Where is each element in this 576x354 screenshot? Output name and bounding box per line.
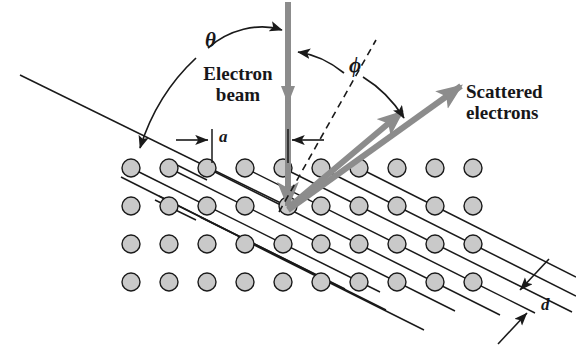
electron-diffraction-figure: Electron beam Scattered electrons θ ϕ a … [0,0,576,354]
atom [426,235,444,253]
atom [198,235,216,253]
atom [350,197,368,215]
atom [236,235,254,253]
atom [312,235,330,253]
lattice-spacing-a-label: a [219,127,228,146]
scattered-electrons-label: Scattered electrons [466,81,576,124]
atom [160,235,178,253]
diagram-canvas [0,0,576,354]
atom [122,197,140,215]
atom [122,235,140,253]
scattered-electrons-label-line2: electrons [466,102,576,123]
atom [274,273,292,291]
atom [388,273,406,291]
atom [312,273,330,291]
atom [198,159,216,177]
atom [388,197,406,215]
atom [312,197,330,215]
bragg-plane [200,217,386,310]
lattice-spacing-a-dimension [176,129,324,163]
atom [426,197,444,215]
atom [464,235,482,253]
atom [426,273,444,291]
atom [350,235,368,253]
plane-spacing-d-label: d [541,295,550,314]
atom [274,235,292,253]
scattered-arrow-inner [288,112,402,208]
atom [236,197,254,215]
atom [388,159,406,177]
electron-beam-label: Electron beam [186,63,290,106]
scattered-arrow-outer [288,86,461,210]
atom [464,159,482,177]
theta-symbol-label: θ [205,29,216,53]
electron-beam-label-line2: beam [186,84,290,105]
atom [236,273,254,291]
atom [122,159,140,177]
normal-dashed-line [279,40,376,212]
scattered-electrons-label-line1: Scattered [466,81,576,102]
phi-symbol-label: ϕ [349,54,361,78]
atom [388,235,406,253]
atom [160,159,178,177]
atom [464,197,482,215]
atom [122,273,140,291]
atom [236,159,254,177]
atom [160,273,178,291]
scattered-electron-arrows [288,86,461,210]
bragg-plane-group [121,161,576,330]
electron-beam-label-line1: Electron [186,63,290,84]
atom-lattice [122,159,482,291]
atom [160,197,178,215]
atom [426,159,444,177]
atom [198,197,216,215]
atom [464,273,482,291]
atom [198,273,216,291]
atom [350,273,368,291]
